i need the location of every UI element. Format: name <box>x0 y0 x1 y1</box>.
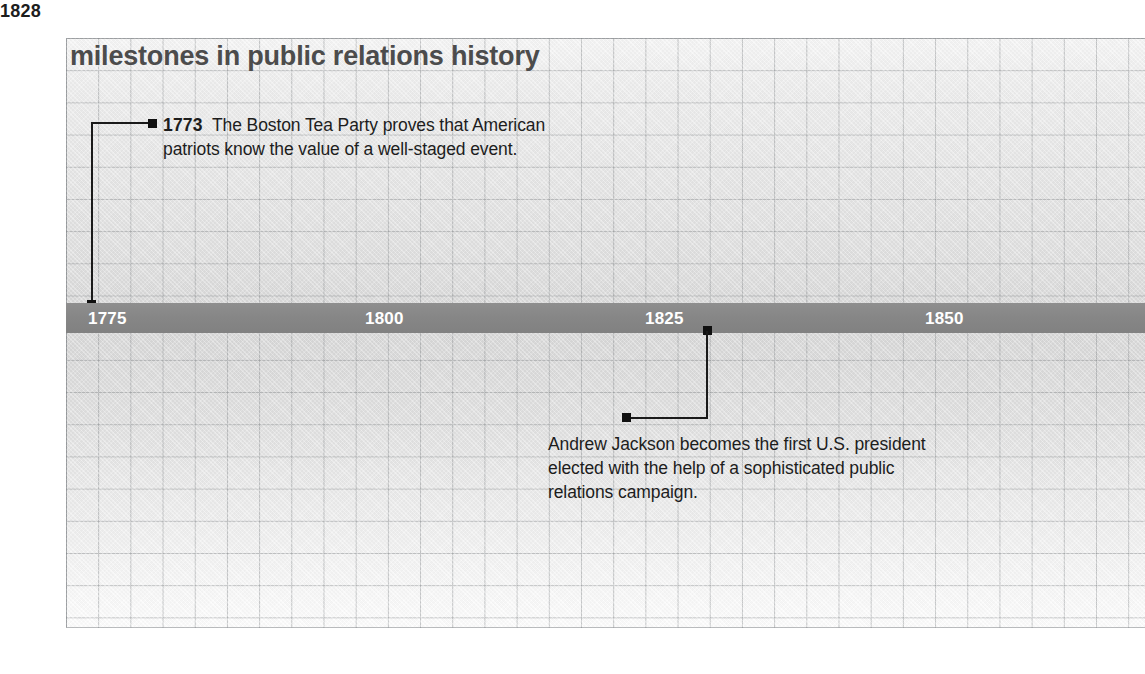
timeline-tick-1775: 1775 <box>88 309 127 328</box>
timeline-tick-1850: 1850 <box>925 309 964 328</box>
connector-vertical-1773 <box>91 122 93 305</box>
marker-square-1773-label <box>148 119 157 128</box>
connector-horizontal-1773 <box>91 122 153 124</box>
milestone-text-1828: Andrew Jackson becomes the first U.S. pr… <box>548 432 948 504</box>
connector-horizontal-1828 <box>628 417 708 419</box>
milestone-year-1773: 1773 <box>163 115 203 135</box>
timeline-tick-1825: 1825 <box>645 309 684 328</box>
milestone-year-1828: 1828 <box>0 0 1145 22</box>
milestone-callout-1773: 1773 The Boston Tea Party proves that Am… <box>163 113 563 161</box>
marker-square-1828-label <box>622 413 631 422</box>
timeline-tick-1800: 1800 <box>365 309 404 328</box>
timeline-axis-bar: 1775 1800 1825 1850 <box>66 303 1145 333</box>
page-title: milestones in public relations history <box>70 40 540 72</box>
milestone-text-1773: The Boston Tea Party proves that America… <box>163 115 545 159</box>
connector-vertical-1828 <box>706 331 708 419</box>
